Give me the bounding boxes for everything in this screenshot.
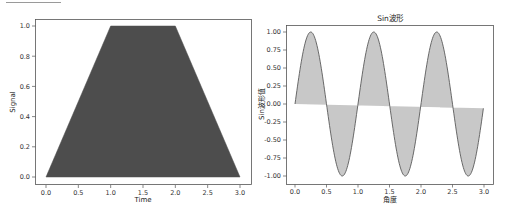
- x-tick-label: 3.0: [235, 189, 245, 197]
- right-chart-title: Sin波形: [377, 13, 404, 23]
- figure: 0.00.51.01.52.02.53.0 0.00.20.40.60.81.0…: [0, 0, 507, 218]
- x-tick-label: 2.0: [416, 188, 426, 196]
- left-y-axis-label: Signal: [9, 91, 17, 113]
- y-tick-label: -0.50: [264, 136, 281, 144]
- right-x-axis-label: 角度: [383, 195, 397, 204]
- y-tick-label: 1.0: [20, 22, 30, 30]
- x-tick-label: 3.0: [479, 188, 489, 196]
- x-tick-label: 2.0: [170, 189, 180, 197]
- y-tick-label: 0.25: [267, 82, 281, 90]
- y-tick-label: 0.75: [267, 46, 281, 54]
- right-y-axis-label: Sin波形值: [257, 88, 266, 120]
- y-tick-label: 0.2: [20, 143, 30, 151]
- left-x-axis-label: Time: [133, 196, 151, 204]
- y-tick-label: -0.75: [264, 154, 281, 162]
- left-y-ticks: 0.00.20.40.60.81.0: [20, 22, 36, 181]
- right-x-ticks: 0.00.51.01.52.02.53.0: [290, 185, 489, 197]
- y-tick-label: 0.00: [267, 100, 281, 108]
- y-tick-label: -1.00: [264, 172, 281, 180]
- trapezoid-fill: [46, 26, 240, 177]
- x-tick-label: 1.0: [105, 189, 115, 197]
- x-tick-label: 0.0: [41, 189, 51, 197]
- y-tick-label: 0.8: [20, 53, 30, 61]
- y-tick-label: 0.0: [20, 173, 30, 181]
- y-tick-label: 0.6: [20, 83, 30, 91]
- trapezoid-signal-chart: 0.00.51.01.52.02.53.0 0.00.20.40.60.81.0…: [9, 20, 252, 205]
- right-y-ticks: -1.00-0.75-0.50-0.250.000.250.500.751.00: [264, 28, 286, 180]
- x-tick-label: 2.5: [202, 189, 212, 197]
- y-tick-label: 0.4: [20, 113, 30, 121]
- x-tick-label: 0.5: [73, 189, 83, 197]
- x-tick-label: 1.5: [384, 188, 394, 196]
- y-tick-label: 1.00: [267, 28, 281, 36]
- y-tick-label: -0.25: [264, 118, 281, 126]
- y-tick-label: 0.50: [267, 64, 281, 72]
- x-tick-label: 0.5: [321, 188, 331, 196]
- x-tick-label: 2.5: [447, 188, 457, 196]
- x-tick-label: 1.0: [353, 188, 363, 196]
- x-tick-label: 0.0: [290, 188, 300, 196]
- sin-wave-chart: Sin波形 0.00.51.01.52.02.53.0 -1.00-0.75-0…: [257, 13, 494, 204]
